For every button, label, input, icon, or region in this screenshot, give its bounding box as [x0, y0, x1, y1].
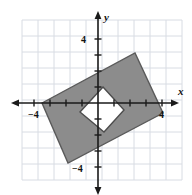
x-tick-label-negative-four: −4 — [28, 109, 39, 120]
x-tick-label-positive-four: 4 — [159, 109, 164, 120]
y-axis-label: y — [102, 11, 109, 23]
y-tick-label-negative-four: −4 — [72, 163, 83, 174]
x-axis-label: x — [177, 85, 184, 97]
graph-svg: x y −4 4 4 −4 — [0, 0, 192, 195]
coordinate-plane-figure: x y −4 4 4 −4 — [0, 0, 192, 195]
y-tick-label-positive-four: 4 — [81, 34, 86, 45]
